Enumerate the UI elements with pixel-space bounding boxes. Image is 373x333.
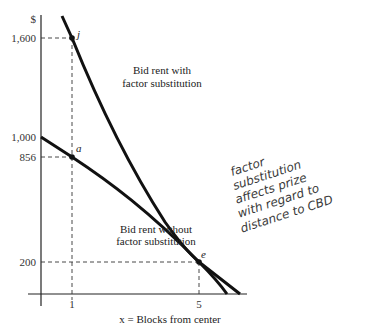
point-e-label: e bbox=[201, 248, 206, 260]
y-unit-label: $ bbox=[31, 13, 37, 25]
point-j bbox=[69, 35, 75, 41]
y-tick-1000: 1,000 bbox=[11, 131, 36, 143]
series-label-without-2: factor substitution bbox=[116, 235, 196, 247]
series-label-with-1: Bid rent with bbox=[133, 64, 192, 76]
bid-rent-chart: $ 1,600 1,000 856 200 1 5 x = Blocks fro… bbox=[0, 0, 373, 333]
handwritten-note: factor substitution affects prize with r… bbox=[221, 138, 335, 235]
point-e bbox=[196, 259, 202, 265]
point-a-label: a bbox=[76, 142, 82, 154]
y-tick-856: 856 bbox=[20, 151, 37, 163]
series-label-with-2: factor substitution bbox=[122, 77, 202, 89]
curve-without-substitution bbox=[41, 137, 240, 294]
x-axis-label: x = Blocks from center bbox=[119, 313, 221, 325]
series-label-without-1: Bid rent without bbox=[120, 223, 192, 235]
y-tick-1600: 1,600 bbox=[11, 32, 36, 44]
x-tick-5: 5 bbox=[196, 298, 202, 310]
point-a bbox=[69, 154, 75, 160]
y-tick-200: 200 bbox=[20, 256, 37, 268]
point-j-label: j bbox=[75, 28, 80, 40]
